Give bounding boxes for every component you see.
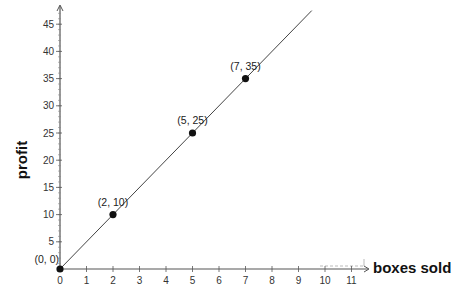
data-point xyxy=(242,75,249,82)
y-tick-label: 20 xyxy=(43,155,55,166)
y-tick-label: 5 xyxy=(48,236,54,247)
x-axis-label: boxes sold xyxy=(373,259,451,276)
data-point xyxy=(109,211,116,218)
y-tick-label: 40 xyxy=(43,46,55,57)
data-point-label: (5, 25) xyxy=(177,114,207,126)
y-tick-label: 25 xyxy=(43,128,55,139)
x-tick-label: 7 xyxy=(243,275,249,286)
y-tick-label: 45 xyxy=(43,19,55,30)
x-tick-label: 5 xyxy=(190,275,196,286)
chart: 5101520253035404501234567891011 (0, 0)(2… xyxy=(0,0,454,292)
x-tick-label: 10 xyxy=(319,275,331,286)
data-line xyxy=(60,11,312,269)
y-axis-label: profit xyxy=(13,141,30,179)
x-tick-label: 4 xyxy=(163,275,169,286)
profit-line xyxy=(60,11,312,269)
x-tick-label: 2 xyxy=(110,275,116,286)
x-tick-label: 8 xyxy=(269,275,275,286)
data-point xyxy=(189,129,196,136)
data-points: (0, 0)(2, 10)(5, 25)(7, 35) xyxy=(34,60,260,273)
x-tick-label: 6 xyxy=(216,275,222,286)
y-tick-label: 30 xyxy=(43,100,55,111)
axes xyxy=(57,5,369,272)
data-point-label: (0, 0) xyxy=(34,253,59,265)
x-tick-label: 9 xyxy=(296,275,302,286)
x-tick-label: 11 xyxy=(346,275,357,286)
y-tick-label: 10 xyxy=(43,209,55,220)
y-tick-label: 35 xyxy=(43,73,55,84)
x-tick-label: 3 xyxy=(137,275,143,286)
axis-ticks: 5101520253035404501234567891011 xyxy=(43,13,357,286)
x-tick-label: 0 xyxy=(57,275,63,286)
data-point xyxy=(56,265,63,272)
data-point-label: (2, 10) xyxy=(98,196,128,208)
data-point-label: (7, 35) xyxy=(230,60,260,72)
x-tick-label: 1 xyxy=(84,275,90,286)
y-tick-label: 15 xyxy=(43,182,55,193)
